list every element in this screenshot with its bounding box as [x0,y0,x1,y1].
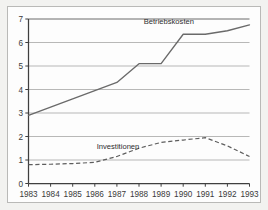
x-tick-label-1988: 1988 [130,190,149,199]
y-tick-label-2: 2 [18,133,23,142]
x-tick-label-1989: 1989 [152,190,171,199]
y-tick-label-7: 7 [18,15,23,24]
plot-area-border [29,19,250,184]
y-tick-label-3: 3 [18,109,23,118]
x-tick-label-1987: 1987 [108,190,127,199]
chart-figure: 01234567 1983198419851986198719881989199… [0,0,268,210]
x-tick-label-1986: 1986 [86,190,105,199]
x-tick-label-1984: 1984 [41,190,60,199]
series-line-betriebskosten [29,25,250,115]
x-tick-label-1990: 1990 [174,190,193,199]
x-tick-label-1992: 1992 [218,190,237,199]
y-tick-label-5: 5 [18,62,23,71]
x-tick-label-1985: 1985 [64,190,83,199]
y-tick-label-1: 1 [18,156,23,165]
x-tick-labels: 1983198419851986198719881989199019911992… [19,190,259,199]
y-tick-labels: 01234567 [18,15,23,189]
series-label-betriebskosten: Betriebskosten [144,17,194,26]
series-label-investitionen: Investitionen [97,142,140,151]
y-axis [25,19,28,184]
y-tick-label-0: 0 [18,180,23,189]
y-tick-label-4: 4 [18,86,23,95]
y-tick-label-6: 6 [18,39,23,48]
x-tick-label-1993: 1993 [240,190,259,199]
x-axis [29,184,250,187]
x-tick-label-1983: 1983 [19,190,38,199]
line-chart: 01234567 1983198419851986198719881989199… [0,0,268,210]
x-tick-label-1991: 1991 [196,190,215,199]
